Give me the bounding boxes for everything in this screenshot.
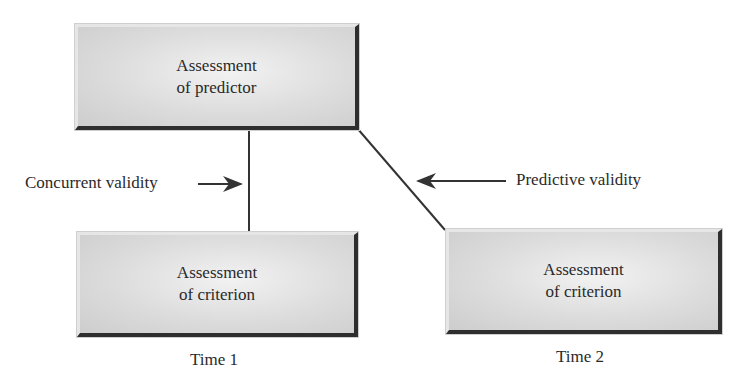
criterion-time1-line2: of criterion xyxy=(179,284,255,306)
predictor-box-line2: of predictor xyxy=(177,77,257,99)
criterion-time1-box: Assessment of criterion xyxy=(77,232,358,337)
criterion-time2-box: Assessment of criterion xyxy=(446,229,722,334)
predictor-box: Assessment of predictor xyxy=(75,24,359,130)
concurrent-validity-label: Concurrent validity xyxy=(25,173,158,193)
criterion-time1-line1: Assessment xyxy=(177,262,257,284)
criterion-time2-line1: Assessment xyxy=(543,259,623,281)
predictive-validity-label: Predictive validity xyxy=(516,170,641,190)
time2-label: Time 2 xyxy=(556,347,604,367)
predictor-box-line1: Assessment xyxy=(176,55,256,77)
criterion-time2-line2: of criterion xyxy=(546,281,622,303)
predictive-connector xyxy=(357,128,445,230)
time1-label: Time 1 xyxy=(190,350,238,370)
